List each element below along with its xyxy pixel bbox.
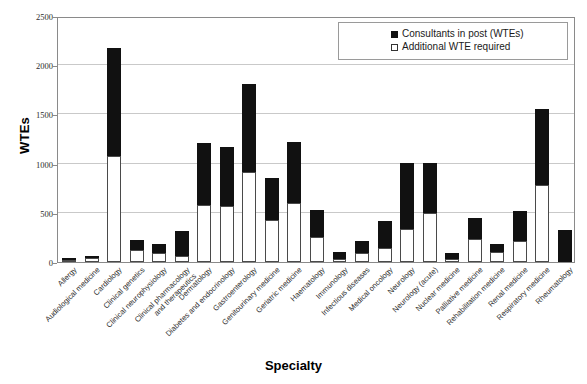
bar-segment-additional-wte[interactable] xyxy=(85,258,99,262)
bar-segment-additional-wte[interactable] xyxy=(130,250,144,262)
bar-segment-consultants-in-post[interactable] xyxy=(490,244,504,252)
bar-group[interactable] xyxy=(175,231,189,262)
bar-group[interactable] xyxy=(400,163,414,262)
y-axis-tick-label: 2500 xyxy=(13,12,53,22)
bar-segment-consultants-in-post[interactable] xyxy=(468,218,482,240)
bar-segment-consultants-in-post[interactable] xyxy=(287,142,301,203)
bar-segment-additional-wte[interactable] xyxy=(310,237,324,262)
bar-segment-additional-wte[interactable] xyxy=(197,205,211,262)
bar-segment-consultants-in-post[interactable] xyxy=(197,143,211,205)
bar-segment-consultants-in-post[interactable] xyxy=(400,163,414,228)
bar-segment-consultants-in-post[interactable] xyxy=(107,48,121,156)
bar-segment-consultants-in-post[interactable] xyxy=(242,84,256,173)
bar-segment-additional-wte[interactable] xyxy=(220,206,234,262)
bar-group[interactable] xyxy=(130,240,144,262)
bar-segment-additional-wte[interactable] xyxy=(445,259,459,262)
bar-group[interactable] xyxy=(513,211,527,262)
bar-segment-consultants-in-post[interactable] xyxy=(130,240,144,250)
y-axis-tick-mark xyxy=(52,66,57,67)
legend-swatch-filled-icon xyxy=(391,31,398,38)
bar-group[interactable] xyxy=(378,221,392,262)
bar-segment-consultants-in-post[interactable] xyxy=(355,241,369,252)
bar-segment-additional-wte[interactable] xyxy=(62,260,76,262)
bar-segment-additional-wte[interactable] xyxy=(175,256,189,262)
bar-group[interactable] xyxy=(242,84,256,262)
y-axis-tick-label: 1000 xyxy=(13,160,53,170)
bar-segment-consultants-in-post[interactable] xyxy=(152,244,166,253)
bar-segment-additional-wte[interactable] xyxy=(333,259,347,262)
legend-item-consultants: Consultants in post (WTEs) xyxy=(345,28,561,40)
bar-segment-consultants-in-post[interactable] xyxy=(265,178,279,220)
bar-chart: WTEs 05001000150020002500 Consultants in… xyxy=(0,0,587,384)
legend: Consultants in post (WTEs) Additional WT… xyxy=(338,22,568,60)
bar-segment-consultants-in-post[interactable] xyxy=(513,211,527,242)
legend-label-consultants: Consultants in post (WTEs) xyxy=(402,28,524,40)
bar-segment-consultants-in-post[interactable] xyxy=(378,221,392,248)
bar-segment-additional-wte[interactable] xyxy=(152,253,166,262)
bar-group[interactable] xyxy=(310,210,324,262)
bar-segment-additional-wte[interactable] xyxy=(242,172,256,262)
bar-group[interactable] xyxy=(333,252,347,262)
bar-segment-consultants-in-post[interactable] xyxy=(85,256,99,258)
bar-segment-additional-wte[interactable] xyxy=(423,213,437,262)
y-axis-tick-label: 500 xyxy=(13,209,53,219)
bar-segment-consultants-in-post[interactable] xyxy=(310,210,324,237)
bar-group[interactable] xyxy=(152,244,166,262)
x-axis-title: Specialty xyxy=(0,358,587,373)
bar-segment-additional-wte[interactable] xyxy=(107,156,121,262)
bar-group[interactable] xyxy=(558,230,572,262)
y-axis-tick-label: 2000 xyxy=(13,61,53,71)
y-axis-tick-label: 1500 xyxy=(13,110,53,120)
bar-segment-additional-wte[interactable] xyxy=(400,229,414,262)
x-axis-tick-labels: AllergyAudiological medicineCardiologyCl… xyxy=(0,266,587,356)
y-axis-tick-mark xyxy=(52,165,57,166)
bar-segment-consultants-in-post[interactable] xyxy=(220,147,234,207)
bar-group[interactable] xyxy=(535,109,549,262)
y-axis-tick-mark xyxy=(52,214,57,215)
bar-segment-consultants-in-post[interactable] xyxy=(423,163,437,213)
bar-group[interactable] xyxy=(107,48,121,263)
legend-swatch-hollow-icon xyxy=(391,44,398,51)
legend-label-additional: Additional WTE required xyxy=(402,41,510,53)
bar-segment-additional-wte[interactable] xyxy=(287,203,301,262)
bar-group[interactable] xyxy=(355,241,369,262)
bar-group[interactable] xyxy=(197,143,211,262)
bar-segment-additional-wte[interactable] xyxy=(265,220,279,262)
bar-group[interactable] xyxy=(85,256,99,262)
legend-item-additional: Additional WTE required xyxy=(345,41,561,53)
bar-segment-additional-wte[interactable] xyxy=(490,252,504,262)
bar-segment-additional-wte[interactable] xyxy=(468,239,482,262)
bar-segment-consultants-in-post[interactable] xyxy=(333,252,347,258)
bar-group[interactable] xyxy=(423,163,437,262)
y-axis-tick-mark xyxy=(52,115,57,116)
y-axis-tick-mark xyxy=(52,17,57,18)
bar-group[interactable] xyxy=(220,147,234,262)
y-axis-tick-mark xyxy=(52,263,57,264)
bar-group[interactable] xyxy=(62,259,76,262)
bar-segment-additional-wte[interactable] xyxy=(513,241,527,262)
bar-group[interactable] xyxy=(468,218,482,262)
bar-group[interactable] xyxy=(287,142,301,262)
bar-segment-additional-wte[interactable] xyxy=(535,185,549,262)
bar-group[interactable] xyxy=(445,253,459,262)
bar-group[interactable] xyxy=(490,244,504,262)
bar-segment-consultants-in-post[interactable] xyxy=(62,258,76,260)
bar-segment-consultants-in-post[interactable] xyxy=(535,109,549,185)
bar-segment-consultants-in-post[interactable] xyxy=(445,253,459,259)
bar-segment-additional-wte[interactable] xyxy=(378,248,392,262)
bar-segment-consultants-in-post[interactable] xyxy=(175,231,189,257)
bar-group[interactable] xyxy=(265,178,279,262)
bar-segment-additional-wte[interactable] xyxy=(355,253,369,262)
bar-segment-consultants-in-post[interactable] xyxy=(558,230,572,262)
